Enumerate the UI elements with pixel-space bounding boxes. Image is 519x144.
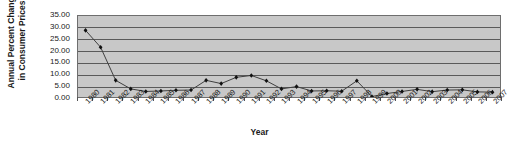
data-point-marker (249, 73, 253, 78)
data-point-marker (129, 86, 133, 91)
series-line-consumer-prices (78, 16, 500, 97)
consumer-prices-line-chart: Annual Percent Change in Consumer Prices… (0, 0, 519, 144)
y-axis-tick-labels: 35.0030.0025.0020.0015.0010.005.000.00 (30, 11, 72, 99)
data-point-marker (234, 75, 238, 80)
data-point-marker (265, 78, 269, 83)
x-axis-tick-labels: 1980198119821983198419851986198719881989… (77, 100, 501, 126)
y-tick-label: 5.00 (54, 82, 70, 90)
data-point-marker (204, 78, 208, 83)
y-tick-label: 10.00 (50, 70, 70, 78)
plot-area (77, 15, 501, 98)
y-tick-label: 0.00 (54, 94, 70, 102)
data-point-marker (295, 84, 299, 89)
y-tick-label: 15.00 (50, 58, 70, 66)
y-tick-label: 30.00 (50, 23, 70, 31)
series-polyline (86, 30, 493, 96)
y-axis-title: Annual Percent Change in Consumer Prices (6, 0, 27, 101)
data-point-marker (280, 86, 284, 91)
y-tick-label: 20.00 (50, 47, 70, 55)
data-point-marker (114, 78, 118, 83)
data-point-marker (219, 81, 223, 86)
x-axis-title: Year (0, 127, 519, 137)
y-tick-label: 25.00 (50, 35, 70, 43)
y-tick-label: 35.00 (50, 11, 70, 19)
